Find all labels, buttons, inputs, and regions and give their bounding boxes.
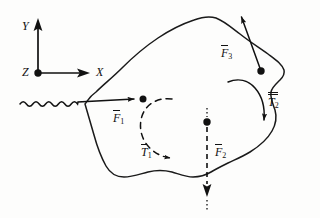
rigid-body-outline [85, 17, 284, 177]
label-T1-symbol: T [141, 146, 148, 158]
z-axis-out-of-page-dot [34, 69, 41, 76]
force-vector-F2 [203, 108, 212, 211]
F3-shaft [242, 17, 262, 71]
label-T2: T2 [268, 96, 279, 108]
axis-label-Y: Y [22, 19, 29, 34]
axis-label-Z: Z [22, 65, 29, 80]
force-vector-F1 [20, 96, 147, 107]
label-F1: F1 [113, 112, 124, 124]
F3-application-point [257, 67, 264, 74]
force-vector-F3 [242, 17, 265, 75]
free-body-diagram [0, 0, 320, 218]
F2-application-point [203, 118, 210, 125]
axis-label-X: X [96, 65, 103, 80]
label-T1: T1 [141, 146, 152, 158]
torque-arc-T2 [228, 80, 264, 120]
label-F3: F3 [221, 47, 232, 59]
label-T1-subscript: 1 [148, 151, 152, 160]
label-F1-subscript: 1 [120, 117, 124, 126]
F2-arrowhead [203, 184, 212, 197]
T2-solid-arc [228, 80, 264, 120]
coordinate-axes [34, 18, 90, 78]
F1-wavy-shaft [20, 99, 134, 106]
label-F2: F2 [215, 146, 226, 158]
label-T2-symbol: T [268, 95, 275, 109]
label-F2-subscript: 2 [222, 151, 226, 160]
label-F3-subscript: 3 [228, 52, 232, 61]
F1-application-point [140, 96, 147, 103]
label-T2-subscript: 2 [275, 101, 279, 110]
